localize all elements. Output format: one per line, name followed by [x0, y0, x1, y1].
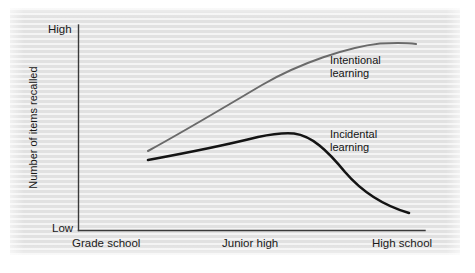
series-annotation-intentional-line-1: Intentional [330, 54, 381, 67]
series-annotation-incidental-line-2: learning [330, 141, 377, 154]
x-tick-label-grade-school: Grade school [72, 236, 140, 250]
y-axis-top-label: High [48, 22, 72, 36]
series-annotation-incidental-learning: Incidental learning [330, 128, 377, 155]
series-annotation-incidental-line-1: Incidental [330, 128, 377, 141]
chart-figure: High Low Number of items recalled Grade … [0, 0, 475, 273]
series-annotation-intentional-line-2: learning [330, 67, 381, 80]
x-tick-label-junior-high: Junior high [222, 236, 278, 250]
x-tick-label-high-school: High school [372, 236, 432, 250]
y-axis-bottom-label: Low [52, 221, 73, 235]
series-annotation-intentional-learning: Intentional learning [330, 54, 381, 81]
y-axis-title: Number of items recalled [27, 69, 40, 189]
